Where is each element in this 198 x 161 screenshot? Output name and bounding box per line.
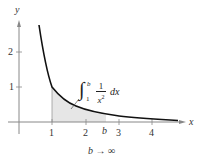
y-tick-label-2: 2 — [8, 47, 13, 57]
x-tick-label-4: 4 — [149, 128, 154, 138]
b-marker-label: b — [102, 126, 107, 136]
x-tick-label-3: 3 — [116, 128, 121, 138]
x-axis-label: x — [189, 117, 193, 127]
x-axis-arrow-icon — [179, 120, 186, 124]
integrand-fraction: 1 x2 — [96, 81, 106, 105]
x-tick-label-1: 1 — [49, 128, 54, 138]
integral-lower-limit: 1 — [86, 95, 90, 103]
fraction-denominator: x2 — [96, 92, 106, 105]
y-tick-label-1: 1 — [9, 82, 14, 92]
x-tick-label-2: 2 — [83, 128, 88, 138]
limit-label: b → ∞ — [88, 145, 115, 156]
integral-upper-limit: b — [87, 80, 91, 88]
integral-sign: ∫ — [79, 78, 84, 101]
fraction-numerator: 1 — [96, 81, 106, 92]
differential: dx — [110, 86, 119, 97]
y-axis-arrow-icon — [17, 20, 21, 27]
denominator-exponent: 2 — [102, 94, 105, 100]
y-axis-label: y — [15, 5, 19, 15]
integral-expression: ∫ b 1 1 x2 dx — [79, 80, 139, 102]
